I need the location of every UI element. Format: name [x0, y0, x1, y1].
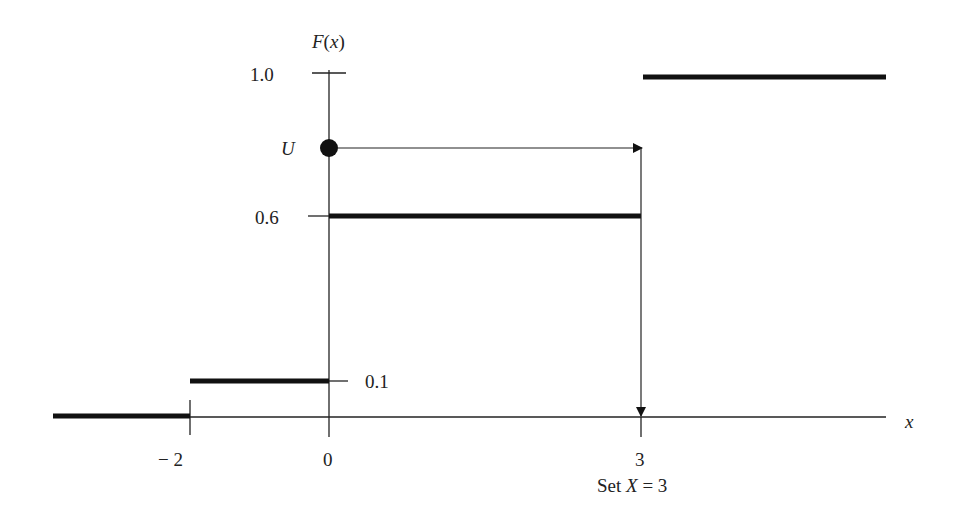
y-label-0.6: 0.6	[255, 207, 279, 228]
y-label-0.1: 0.1	[365, 371, 389, 392]
cdf-diagram: F(x) 1.0 U 0.6 0.1 − 2 0 3 x Set X = 3	[0, 0, 956, 522]
x-label-3: 3	[635, 449, 645, 470]
u-point	[320, 139, 338, 157]
set-x-annotation: Set X = 3	[597, 475, 667, 496]
x-label-0: 0	[323, 449, 333, 470]
x-label-minus2: − 2	[158, 449, 183, 470]
y-label-1.0: 1.0	[250, 64, 274, 85]
y-axis-label: F(x)	[311, 31, 345, 53]
y-label-u: U	[281, 138, 296, 159]
x-axis-label: x	[904, 411, 914, 432]
